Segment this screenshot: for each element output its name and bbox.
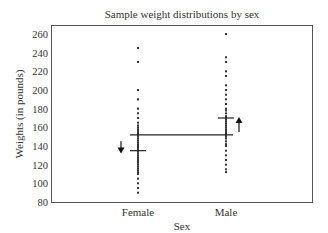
data-point [137, 167, 139, 169]
data-point [225, 126, 227, 128]
data-point [225, 150, 227, 152]
data-point [137, 171, 139, 173]
data-point [137, 139, 139, 141]
data-point [225, 143, 227, 145]
data-point [137, 160, 139, 162]
data-point [225, 75, 227, 77]
y-tick-label: 120 [32, 160, 48, 171]
data-point [137, 126, 139, 128]
data-point [137, 141, 139, 143]
data-point [225, 115, 227, 117]
data-point [137, 89, 139, 91]
data-point [137, 173, 139, 175]
data-point [137, 182, 139, 184]
data-point [225, 138, 227, 140]
data-point [225, 61, 227, 63]
data-point [137, 164, 139, 166]
y-tick-label: 100 [32, 178, 48, 189]
data-point [137, 152, 139, 154]
data-point [225, 103, 227, 105]
data-point [225, 119, 227, 121]
x-axis-label: Sex [174, 220, 191, 232]
data-point [225, 98, 227, 100]
data-point [225, 56, 227, 58]
data-point [225, 124, 227, 126]
data-point [137, 169, 139, 171]
data-point [225, 94, 227, 96]
data-point [137, 158, 139, 160]
data-point [225, 89, 227, 91]
arrowhead-icon [236, 117, 243, 123]
y-tick-label: 140 [32, 141, 48, 152]
data-point [137, 61, 139, 63]
data-point [225, 110, 227, 112]
y-tick-label: 240 [32, 48, 48, 59]
data-point [137, 98, 139, 100]
data-point [137, 112, 139, 114]
arrowhead-icon [118, 148, 125, 154]
data-point [137, 162, 139, 164]
data-point [225, 168, 227, 170]
data-point [225, 33, 227, 35]
data-point [225, 123, 227, 125]
y-axis-label: Weights (in pounds) [13, 69, 26, 158]
y-tick-label: 80 [38, 197, 49, 208]
data-point [137, 192, 139, 194]
data-point [225, 121, 227, 123]
data-point [137, 47, 139, 49]
y-tick-label: 260 [32, 29, 48, 40]
data-point [137, 132, 139, 134]
data-point [225, 154, 227, 156]
data-point [137, 136, 139, 138]
data-point [137, 108, 139, 110]
data-point [137, 147, 139, 149]
data-point [137, 187, 139, 189]
data-point [225, 70, 227, 72]
x-tick-male: Male [215, 206, 238, 218]
y-tick-label: 180 [32, 104, 48, 115]
mean-markers [118, 117, 243, 154]
data-point [225, 132, 227, 134]
y-tick-label: 220 [32, 66, 48, 77]
data-point [137, 145, 139, 147]
data-point [137, 154, 139, 156]
data-point [137, 143, 139, 145]
y-axis-ticks: 80100120140160180200220240260 [32, 29, 48, 208]
data-point [225, 128, 227, 130]
data-point [137, 138, 139, 140]
data-points [137, 33, 227, 194]
y-tick-label: 200 [32, 85, 48, 96]
chart-title: Sample weight distributions by sex [105, 8, 260, 20]
weight-distribution-chart: Sample weight distributions by sex 80100… [0, 0, 328, 233]
data-point [225, 140, 227, 142]
data-point [225, 159, 227, 161]
data-point [225, 84, 227, 86]
data-point [225, 130, 227, 132]
data-point [137, 117, 139, 119]
data-point [225, 108, 227, 110]
data-point [225, 136, 227, 138]
data-point [137, 156, 139, 158]
data-point [225, 145, 227, 147]
y-tick-label: 160 [32, 122, 48, 133]
x-tick-female: Female [122, 206, 154, 218]
data-point [137, 166, 139, 168]
data-point [225, 112, 227, 114]
data-point [137, 122, 139, 124]
data-point [137, 178, 139, 180]
data-point [137, 124, 139, 126]
data-point [225, 164, 227, 166]
data-point [225, 171, 227, 173]
data-point [137, 128, 139, 130]
data-point [137, 130, 139, 132]
plot-area [52, 26, 313, 203]
